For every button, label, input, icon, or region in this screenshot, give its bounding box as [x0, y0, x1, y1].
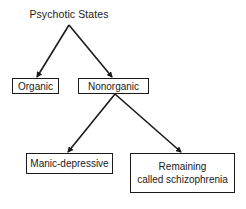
- arrow-root-to-organic: [37, 25, 69, 77]
- node-organic: Organic: [12, 78, 59, 94]
- root-node-psychotic-states: Psychotic States: [28, 8, 110, 20]
- node-manic-depressive: Manic-depressive: [26, 153, 113, 174]
- node-nonorganic: Nonorganic: [78, 78, 149, 94]
- node-organic-label: Organic: [18, 80, 53, 93]
- node-remaining-schizophrenia: Remaining called schizophrenia: [130, 153, 235, 193]
- arrow-nonorganic-to-manic: [68, 94, 115, 152]
- arrow-nonorganic-to-remaining: [115, 94, 181, 152]
- node-remaining-label-line2: called schizophrenia: [137, 173, 228, 186]
- node-manic-depressive-label: Manic-depressive: [30, 157, 108, 170]
- node-nonorganic-label: Nonorganic: [88, 80, 139, 93]
- node-remaining-label-line1: Remaining: [159, 160, 207, 173]
- arrow-root-to-nonorganic: [69, 25, 112, 77]
